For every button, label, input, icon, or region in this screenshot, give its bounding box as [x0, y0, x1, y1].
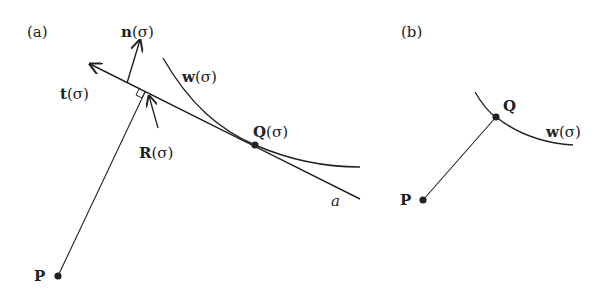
point-p [54, 272, 61, 279]
point-q-label-b: Q [503, 97, 516, 115]
foot-pointer-arrow [149, 96, 158, 128]
panel-a: (a) n(σ) t(σ) w(σ) R(σ) Q(σ) a P [27, 23, 360, 285]
curve-w-label-b: w(σ) [545, 123, 581, 141]
segment-p-q [423, 117, 496, 200]
panel-b-label: (b) [401, 23, 422, 41]
point-p-label-b: P [400, 191, 411, 209]
normal-label: n(σ) [121, 23, 154, 41]
curve-w-label: w(σ) [181, 68, 217, 86]
foot-r-label: R(σ) [139, 144, 173, 162]
line-a-label: a [331, 192, 340, 210]
panel-b: (b) Q w(σ) P [400, 23, 581, 209]
point-p-label: P [34, 267, 45, 285]
tangent-line-a [90, 64, 360, 199]
normal-vector-arrow [127, 40, 140, 83]
contact-q-label: Q(σ) [253, 123, 288, 141]
diagram-svg: (a) n(σ) t(σ) w(σ) R(σ) Q(σ) a P (b) Q [0, 0, 616, 297]
point-q-b [492, 113, 499, 120]
segment-p-r [58, 92, 145, 276]
point-p-b [419, 196, 426, 203]
tangent-label: t(σ) [60, 85, 89, 103]
panel-a-label: (a) [27, 23, 48, 41]
diagram-canvas: (a) n(σ) t(σ) w(σ) R(σ) Q(σ) a P (b) Q [0, 0, 616, 297]
contact-point-q [251, 141, 258, 148]
